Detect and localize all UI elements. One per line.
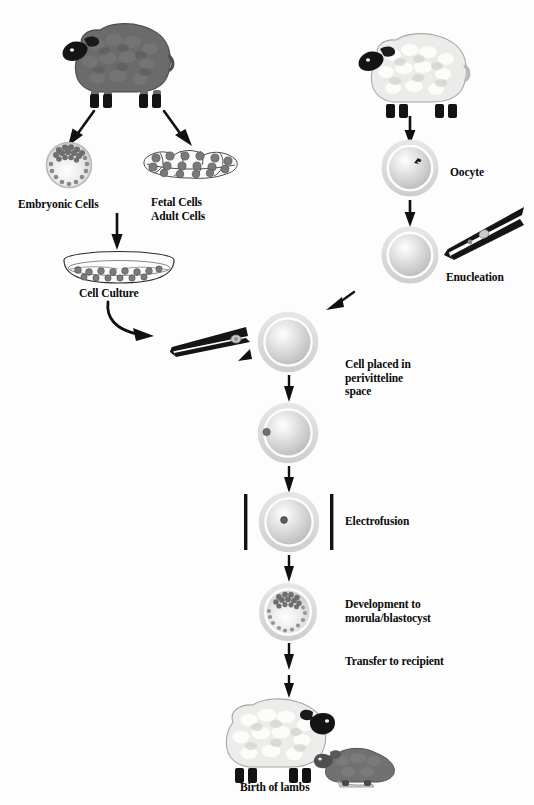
label-embryonic-cells: Embryonic Cells [18, 198, 99, 212]
label-development: Development to morula/blastocyst [345, 598, 431, 625]
arrow-center-2 [281, 466, 297, 494]
arrow-oocyte-to-center [318, 290, 358, 316]
cell-culture-dish [60, 250, 178, 288]
label-fetal-adult-cells: Fetal Cells Adult Cells [151, 196, 205, 223]
label-enucleation: Enucleation [446, 271, 504, 285]
label-cell-culture: Cell Culture [79, 287, 139, 301]
label-cell-placed: Cell placed in perivitteline space [345, 358, 411, 399]
electrode-right [330, 494, 333, 550]
center-cell-enucleated [258, 312, 318, 372]
oocyte [382, 140, 438, 196]
label-birth-of-lambs: Birth of lambs [240, 781, 310, 795]
cloning-diagram: Embryonic Cells Fetal Cells Adult Cells [0, 0, 534, 805]
arrow-center-3 [281, 555, 297, 583]
cloned-lamb [312, 737, 402, 789]
label-electrofusion: Electrofusion [345, 515, 409, 529]
electrofusion-chamber [243, 492, 335, 554]
fetal-adult-cell-monolayer [140, 140, 244, 186]
donor-sheep [52, 12, 180, 110]
arrow-pipette-to-center-cell [238, 345, 260, 365]
label-oocyte: Oocyte [450, 166, 484, 180]
morula-blastocyst [259, 583, 317, 641]
enucleation-micropipette [428, 205, 528, 263]
oocyte-donor-sheep [348, 22, 476, 120]
label-transfer: Transfer to recipient [345, 655, 444, 669]
arrow-center-1 [281, 375, 297, 403]
arrow-to-enucleation [401, 200, 419, 228]
center-cell-with-donor-cell [258, 403, 318, 463]
arrow-center-4 [281, 643, 297, 671]
embryonic-cells-blastocyst [44, 140, 94, 190]
arrow-to-cell-culture [108, 213, 126, 251]
electrode-left [244, 494, 247, 550]
